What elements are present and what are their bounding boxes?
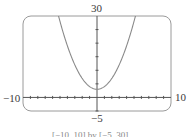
ymax-label: 30 [91,3,102,14]
xmin-label: −10 [3,93,20,104]
xmax-label: 10 [175,92,186,103]
window-caption: [−10, 10] by [−5, 30] [52,130,128,137]
ymin-label: −5 [91,113,103,124]
